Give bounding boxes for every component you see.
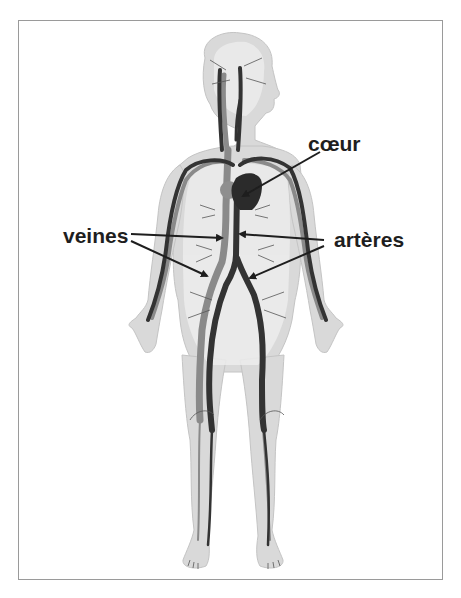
veins-label: veines [63,225,128,246]
circulatory-system-illustration [0,0,461,598]
heart-label: cœur [308,133,361,154]
arteries-label: artères [334,229,404,250]
